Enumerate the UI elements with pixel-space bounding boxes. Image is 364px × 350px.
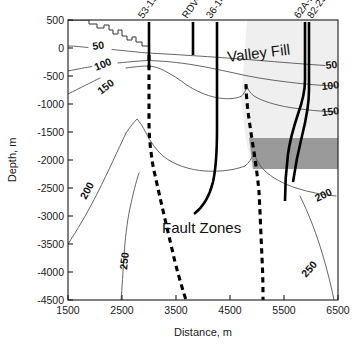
y-tick-label: -500 bbox=[43, 70, 64, 82]
well-label-rdv-7: RDV-7 bbox=[180, 0, 206, 20]
contour-labels-left-group: 50 100 150 200 250 bbox=[77, 38, 131, 270]
y-tick-label: -1500 bbox=[37, 126, 64, 138]
contour-label-200-right: 200 bbox=[313, 185, 334, 204]
isotherm-250-right bbox=[300, 196, 334, 300]
well-labels-group: 53-15 RDV-7 36-14 62A-23 82-23 bbox=[136, 0, 329, 20]
y-axis-title: Depth, m bbox=[6, 138, 18, 183]
contour-label-100-left: 100 bbox=[92, 55, 113, 73]
y-tick-label: -2000 bbox=[37, 154, 64, 166]
x-tick-label: 1500 bbox=[56, 304, 80, 316]
y-tick-label: -3000 bbox=[37, 210, 64, 222]
x-tick-label: 6500 bbox=[326, 304, 350, 316]
isotherm-50-mid bbox=[112, 50, 148, 54]
y-tick-label: -3500 bbox=[37, 238, 64, 250]
topographic-surface-line bbox=[68, 20, 148, 46]
contour-label-50-right: 50 bbox=[325, 58, 338, 71]
contour-label-150-right: 150 bbox=[321, 104, 340, 118]
contour-label-200-left: 200 bbox=[77, 180, 96, 201]
y-tick-label: -4000 bbox=[37, 266, 64, 278]
y-tick-label: 500 bbox=[46, 14, 64, 26]
isotherm-100-mid bbox=[118, 61, 148, 64]
wellbore-36-14 bbox=[194, 22, 217, 214]
topographic-surface-group bbox=[68, 20, 148, 46]
y-tick-labels: 500 0 -500 -1000 -1500 -2000 -2500 -3000… bbox=[37, 14, 64, 306]
isotherm-200-left bbox=[68, 133, 126, 244]
contour-label-50-left: 50 bbox=[92, 38, 105, 52]
x-tick-label: 2500 bbox=[110, 304, 134, 316]
well-label-53-15: 53-15 bbox=[136, 0, 160, 20]
geologic-cross-section-figure: 500 0 -500 -1000 -1500 -2000 -2500 -3000… bbox=[0, 0, 364, 350]
isotherm-100-left bbox=[68, 67, 92, 72]
x-ticks bbox=[68, 295, 338, 300]
isotherm-50-left bbox=[68, 46, 88, 48]
contour-label-100-right: 100 bbox=[321, 78, 340, 92]
y-tick-label: 0 bbox=[58, 42, 64, 54]
contour-label-250-left: 250 bbox=[117, 251, 131, 270]
annotation-fault-zones: Fault Zones bbox=[162, 219, 241, 236]
y-ticks bbox=[68, 20, 73, 300]
x-tick-label: 4500 bbox=[218, 304, 242, 316]
contour-label-250-right: 250 bbox=[299, 258, 320, 279]
y-tick-label: -1000 bbox=[37, 98, 64, 110]
isotherm-200-bowl-left bbox=[126, 119, 245, 171]
x-tick-labels: 1500 2500 3500 4500 5500 6500 bbox=[56, 304, 350, 316]
y-tick-label: -2500 bbox=[37, 182, 64, 194]
isotherm-250-left bbox=[121, 173, 139, 300]
x-tick-label: 5500 bbox=[272, 304, 296, 316]
x-tick-label: 3500 bbox=[164, 304, 188, 316]
shaded-region-reservoir-dark bbox=[249, 138, 338, 169]
fault-zone-west bbox=[149, 55, 186, 300]
well-label-36-14: 36-14 bbox=[204, 0, 228, 20]
chart-canvas: 500 0 -500 -1000 -1500 -2000 -2500 -3000… bbox=[0, 0, 364, 350]
x-axis-title: Distance, m bbox=[174, 326, 232, 338]
